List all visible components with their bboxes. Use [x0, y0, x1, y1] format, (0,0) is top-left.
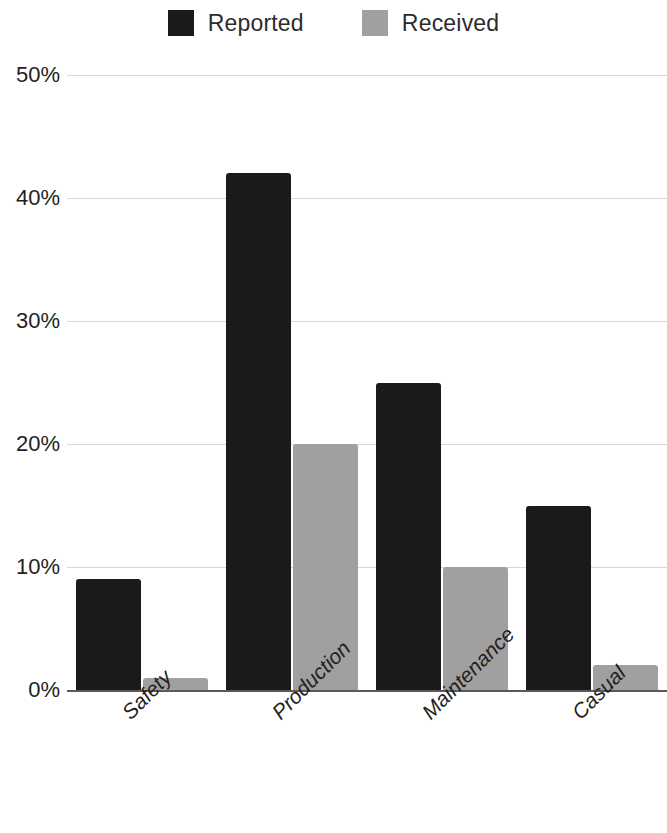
- gridline: [67, 321, 667, 322]
- legend-swatch-reported: [168, 10, 194, 36]
- legend-item-reported[interactable]: Reported: [168, 10, 304, 36]
- bar-production-reported[interactable]: [226, 173, 291, 690]
- legend-label-received: Received: [402, 12, 500, 35]
- bar-chart: Reported Received 0%10%20%30%40%50% Safe…: [0, 0, 667, 833]
- y-tick-label: 50%: [2, 64, 60, 86]
- chart-legend: Reported Received: [0, 0, 667, 46]
- bar-safety-reported[interactable]: [76, 579, 141, 690]
- plot-area: [67, 75, 667, 690]
- y-tick-label: 30%: [2, 310, 60, 332]
- bar-casual-reported[interactable]: [526, 506, 591, 691]
- gridline: [67, 444, 667, 445]
- legend-swatch-received: [362, 10, 388, 36]
- gridline: [67, 75, 667, 76]
- legend-item-received[interactable]: Received: [362, 10, 500, 36]
- bar-maintenance-reported[interactable]: [376, 383, 441, 691]
- legend-label-reported: Reported: [208, 12, 304, 35]
- x-axis: SafetyProductionMaintenanceCasual: [0, 690, 667, 833]
- y-tick-label: 20%: [2, 433, 60, 455]
- gridline: [67, 198, 667, 199]
- y-tick-label: 10%: [2, 556, 60, 578]
- y-tick-label: 40%: [2, 187, 60, 209]
